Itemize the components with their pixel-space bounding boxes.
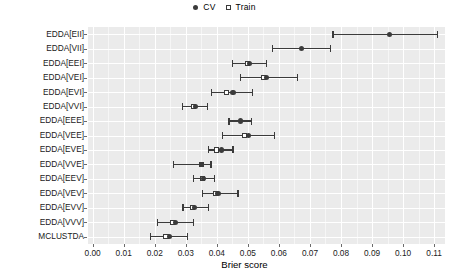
y-axis-tick-label: EDDA[EEE] <box>0 115 84 125</box>
data-point-cv <box>238 118 243 123</box>
error-bar-cap-low <box>150 233 151 240</box>
error-bar-cap-low <box>182 103 183 110</box>
x-axis-tick-mark <box>124 244 125 247</box>
chart-root: CV Train EDDA[EII]EDDA[VII]EDDA[EEI]EDDA… <box>0 0 449 277</box>
x-axis-tick-mark <box>217 244 218 247</box>
legend-label-cv: CV <box>203 2 215 12</box>
x-axis-tick-mark <box>341 244 342 247</box>
filled-circle-icon <box>193 5 198 10</box>
y-axis-tick-label: EDDA[EII] <box>0 29 84 39</box>
y-axis-tick-mark <box>84 150 87 151</box>
gridline-horizontal-major <box>88 208 445 209</box>
x-axis-tick-mark <box>155 244 156 247</box>
x-axis-title: Brier score <box>0 259 449 270</box>
error-bar-cap-high <box>187 233 188 240</box>
error-bar-cap-high <box>193 219 194 226</box>
error-bar <box>174 164 211 165</box>
error-bar-cap-high <box>232 146 233 153</box>
gridline-horizontal-major <box>88 121 445 122</box>
y-axis-tick-label: EDDA[EVV] <box>0 202 84 212</box>
gridline-horizontal-major <box>88 150 445 151</box>
error-bar-cap-low <box>240 74 241 81</box>
x-axis-tick-mark <box>372 244 373 247</box>
y-axis-tick-mark <box>84 121 87 122</box>
y-axis-tick-mark <box>84 237 87 238</box>
gridline-horizontal-major <box>88 164 445 165</box>
y-axis-tick-label: EDDA[VVE] <box>0 159 84 169</box>
error-bar-cap-low <box>202 190 203 197</box>
error-bar-cap-low <box>208 146 209 153</box>
y-axis-tick-mark <box>84 49 87 50</box>
error-bar-cap-low <box>211 89 212 96</box>
y-axis-tick-label: MCLUSTDA <box>0 231 84 241</box>
x-axis-tick-mark <box>310 244 311 247</box>
data-point-cv <box>215 191 220 196</box>
error-bar-cap-high <box>251 118 252 125</box>
open-square-icon <box>226 5 231 10</box>
y-axis-tick-mark <box>84 92 87 93</box>
y-axis-tick-mark <box>84 34 87 35</box>
error-bar-cap-high <box>330 45 331 52</box>
x-axis-tick-mark <box>93 244 94 247</box>
gridline-horizontal-major <box>88 92 445 93</box>
data-point-cv <box>387 32 392 37</box>
y-axis-tick-mark <box>84 179 87 180</box>
y-axis-tick-mark <box>84 63 87 64</box>
gridline-horizontal-major <box>88 237 445 238</box>
y-axis-tick-mark <box>84 136 87 137</box>
gridline-horizontal-major <box>88 107 445 108</box>
y-axis-tick-mark <box>84 78 87 79</box>
y-axis-tick-label: EDDA[EEV] <box>0 173 84 183</box>
y-axis-tick-label: EDDA[EEI] <box>0 58 84 68</box>
error-bar-cap-high <box>210 161 211 168</box>
x-axis-tick-mark <box>434 244 435 247</box>
gridline-horizontal-major <box>88 49 445 50</box>
data-point-cv <box>219 147 224 152</box>
error-bar-cap-low <box>332 31 333 38</box>
gridline-horizontal-major <box>88 179 445 180</box>
x-axis-tick-mark <box>279 244 280 247</box>
error-bar-cap-low <box>272 45 273 52</box>
x-axis-title-label: Brier score <box>181 259 267 270</box>
error-bar-cap-high <box>266 60 267 67</box>
x-axis-tick-mark <box>403 244 404 247</box>
y-axis-tick-label: EDDA[VEI] <box>0 72 84 82</box>
error-bar <box>241 77 298 78</box>
y-axis-tick-label: EDDA[VEV] <box>0 188 84 198</box>
x-axis-tick-label: 0.11 <box>414 248 449 258</box>
x-axis-tick-mark <box>186 244 187 247</box>
error-bar-cap-low <box>193 175 194 182</box>
error-bar-cap-high <box>207 103 208 110</box>
error-bar <box>333 34 437 35</box>
error-bar-cap-low <box>173 161 174 168</box>
error-bar-cap-low <box>182 204 183 211</box>
legend-label-train: Train <box>236 2 256 12</box>
gridline-horizontal-major <box>88 193 445 194</box>
y-axis-tick-label: EDDA[VEE] <box>0 130 84 140</box>
y-axis-tick-mark <box>84 107 87 108</box>
error-bar-cap-high <box>437 31 438 38</box>
data-point-train <box>224 90 229 95</box>
error-bar-cap-high <box>214 175 215 182</box>
error-bar-cap-low <box>232 60 233 67</box>
chart-legend: CV Train <box>0 2 449 12</box>
gridline-horizontal-major <box>88 222 445 223</box>
y-axis-tick-label: EDDA[EVE] <box>0 144 84 154</box>
y-axis-tick-mark <box>84 164 87 165</box>
error-bar-cap-high <box>208 204 209 211</box>
error-bar-cap-high <box>297 74 298 81</box>
error-bar-cap-high <box>252 89 253 96</box>
x-axis-tick-mark <box>248 244 249 247</box>
y-axis-tick-mark <box>84 193 87 194</box>
data-point-cv <box>230 90 235 95</box>
y-axis-tick-label: EDDA[VVI] <box>0 101 84 111</box>
error-bar-cap-low <box>222 132 223 139</box>
legend-item-cv: CV <box>193 2 215 12</box>
legend-item-train: Train <box>226 2 256 12</box>
error-bar-cap-low <box>157 219 158 226</box>
error-bar-cap-high <box>237 190 238 197</box>
y-axis-tick-label: EDDA[EVI] <box>0 87 84 97</box>
y-axis-tick-label: EDDA[VVV] <box>0 217 84 227</box>
y-axis-tick-label: EDDA[VII] <box>0 43 84 53</box>
y-axis-tick-mark <box>84 222 87 223</box>
